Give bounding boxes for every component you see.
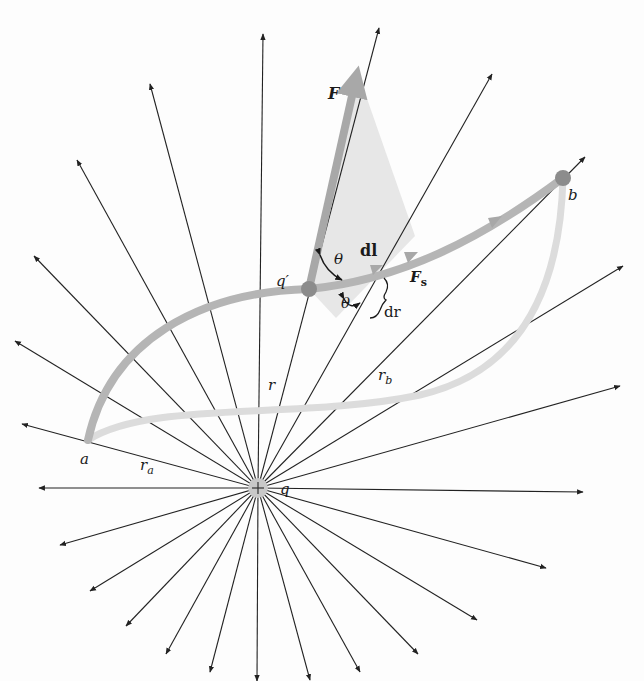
field-line: [258, 488, 477, 620]
field-line: [60, 488, 258, 545]
label-point-a: a: [80, 452, 89, 467]
field-line: [210, 488, 258, 672]
field-line: [258, 488, 583, 492]
label-Fs: Fs: [410, 270, 427, 288]
field-line: [258, 386, 620, 488]
label-q-prime: q′: [276, 274, 289, 289]
field-line: [258, 488, 546, 568]
label-theta-top: θ: [334, 252, 343, 267]
diagram-svg: [0, 0, 644, 681]
field-line: [257, 488, 258, 681]
label-theta-bottom: θ: [341, 296, 350, 311]
field-line: [258, 488, 310, 680]
diagram-canvas: F θ θ dl Fs dr r ra rb a b q q′: [0, 0, 644, 681]
field-lines: [15, 28, 623, 681]
label-r: r: [268, 378, 275, 393]
field-line: [166, 488, 258, 654]
label-r-a: ra: [140, 458, 154, 476]
label-F: F: [328, 86, 339, 102]
point-b: [555, 170, 571, 186]
point-q-prime: [301, 281, 317, 297]
label-dr: dr: [384, 305, 401, 320]
field-line: [258, 488, 418, 654]
field-line: [258, 157, 585, 488]
field-line: [258, 488, 360, 672]
label-r-b: rb: [378, 368, 392, 386]
field-line: [258, 34, 263, 488]
label-charge-q: q: [280, 482, 290, 497]
label-point-b: b: [568, 188, 578, 203]
field-line: [258, 266, 623, 488]
field-line: [150, 84, 258, 488]
field-line: [34, 256, 258, 488]
label-dl: dl: [360, 243, 377, 259]
